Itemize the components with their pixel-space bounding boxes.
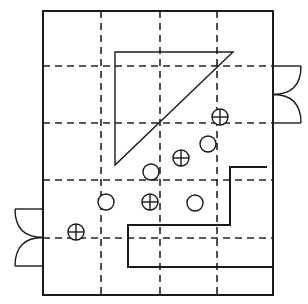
crossed-circle-icon	[212, 109, 228, 125]
left-door	[15, 209, 43, 266]
circle-icon	[200, 136, 216, 152]
circle-icon	[143, 164, 159, 180]
crossed-circle-icon	[142, 194, 158, 210]
crossed-circle-icon	[173, 150, 189, 166]
door-swing-arc	[273, 66, 301, 95]
crossed-circle-icon	[68, 224, 84, 240]
door-swing-arc	[273, 95, 301, 124]
right-door	[273, 66, 301, 123]
symbols	[68, 109, 228, 240]
outer-frame	[43, 11, 273, 295]
circle-icon	[187, 195, 203, 211]
floor-plan-diagram	[0, 0, 308, 304]
door-swing-arc	[15, 238, 43, 267]
stair-wall	[128, 167, 273, 267]
door-swing-arc	[15, 209, 43, 238]
circle-icon	[98, 194, 114, 210]
dashed-grid	[43, 11, 273, 295]
